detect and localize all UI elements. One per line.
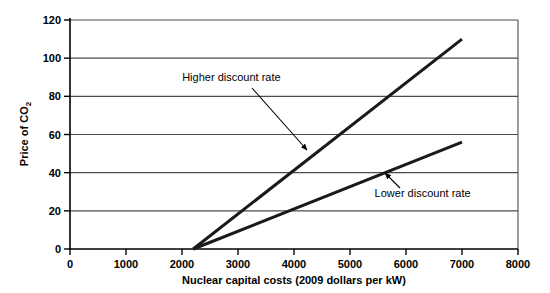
x-axis-tick-labels: 0 1000 2000 3000 4000 5000 6000 7000 800… bbox=[67, 258, 530, 270]
annotation-label-higher-discount-rate: Higher discount rate bbox=[182, 71, 280, 83]
y-tick-label-0: 0 bbox=[55, 243, 61, 255]
y-axis-title-main: Price of CO bbox=[18, 106, 30, 166]
y-tick-label-80: 80 bbox=[49, 90, 61, 102]
y-tick-label-100: 100 bbox=[43, 52, 61, 64]
x-tick-label-1000: 1000 bbox=[114, 258, 138, 270]
y-axis-tick-labels: 120 100 80 60 40 20 0 bbox=[43, 14, 61, 255]
y-tick-label-60: 60 bbox=[49, 129, 61, 141]
chart-figure: 120 100 80 60 40 20 0 0 1000 2000 3000 bbox=[0, 0, 550, 293]
y-tick-label-40: 40 bbox=[49, 167, 61, 179]
x-tick-label-7000: 7000 bbox=[450, 258, 474, 270]
co2-price-vs-nuclear-capital-cost-chart: 120 100 80 60 40 20 0 0 1000 2000 3000 bbox=[0, 0, 550, 293]
x-tick-label-8000: 8000 bbox=[506, 258, 530, 270]
y-axis-title-subscript: 2 bbox=[24, 101, 33, 106]
y-tick-label-120: 120 bbox=[43, 14, 61, 26]
y-axis-ticks bbox=[64, 20, 70, 249]
x-tick-label-4000: 4000 bbox=[282, 258, 306, 270]
x-tick-label-2000: 2000 bbox=[170, 258, 194, 270]
x-tick-label-0: 0 bbox=[67, 258, 73, 270]
x-axis-ticks bbox=[70, 249, 518, 255]
y-axis-title-group: Price of CO2 bbox=[18, 101, 33, 166]
x-tick-label-3000: 3000 bbox=[226, 258, 250, 270]
annotation-label-lower-discount-rate: Lower discount rate bbox=[375, 187, 471, 199]
x-tick-label-6000: 6000 bbox=[394, 258, 418, 270]
x-axis-title: Nuclear capital costs (2009 dollars per … bbox=[182, 274, 406, 286]
y-tick-label-20: 20 bbox=[49, 205, 61, 217]
y-axis-title: Price of CO2 bbox=[18, 101, 33, 166]
x-tick-label-5000: 5000 bbox=[338, 258, 362, 270]
